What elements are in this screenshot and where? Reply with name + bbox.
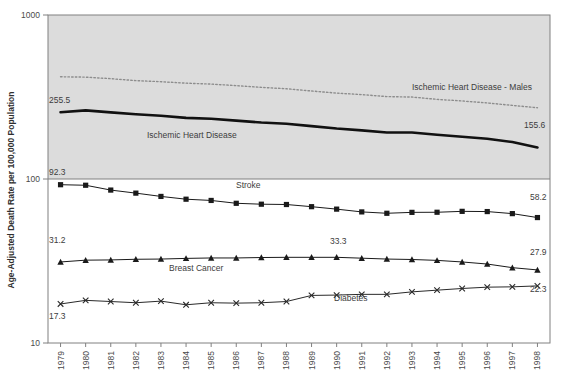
series-marker-square [133,191,138,196]
value-annotation: 31.2 [49,235,66,245]
x-tick-label: 1982 [131,351,141,370]
x-tick-label: 1994 [432,351,442,370]
x-tick-label: 1981 [106,351,116,370]
x-tick-label: 1979 [56,351,66,370]
series-marker-square [485,209,490,214]
series-marker-square [334,207,339,212]
series-marker-square [460,209,465,214]
x-tick-label: 1990 [332,351,342,370]
x-tick-label: 1988 [281,351,291,370]
series-marker-square [510,211,515,216]
value-annotation: 255.5 [49,95,71,105]
x-tick-label: 1986 [231,351,241,370]
series-marker-square [535,215,540,220]
x-tick-label: 1995 [457,351,467,370]
x-tick-label: 1991 [357,351,367,370]
y-axis-title: Age-Adjusted Death Rate per 100,000 Popu… [6,92,16,289]
series-marker-square [58,182,63,187]
x-tick-label: 1985 [206,351,216,370]
value-annotation: 92.3 [49,167,66,177]
series-inline-label: Breast Cancer [169,263,223,273]
series-marker-square [108,187,113,192]
x-tick-label: 1989 [307,351,317,370]
y-tick-label: 1000 [21,10,40,20]
series-marker-square [409,210,414,215]
series-marker-square [309,204,314,209]
value-annotation: 58.2 [530,192,547,202]
x-tick-label: 1997 [507,351,517,370]
series-inline-label: Ischemic Heart Disease - Males [412,82,532,92]
line-chart: 100010010 197919801981198219831984198519… [0,0,566,375]
value-annotation: 27.9 [530,247,547,257]
series-marker-square [158,194,163,199]
series-marker-square [209,198,214,203]
series-marker-square [284,202,289,207]
series-marker-square [259,202,264,207]
x-tick-label: 1980 [81,351,91,370]
x-tick-label: 1998 [532,351,542,370]
value-annotation: 17.3 [49,311,66,321]
x-tick-label: 1993 [407,351,417,370]
series-marker-square [359,209,364,214]
x-tick-label: 1983 [156,351,166,370]
chart-container: 100010010 197919801981198219831984198519… [0,0,566,375]
value-annotation: 155.6 [524,120,546,130]
y-tick-label: 100 [26,174,40,184]
plot-band-upper [48,15,550,179]
x-tick-label: 1987 [256,351,266,370]
series-marker-square [83,183,88,188]
series-inline-label: Diabetes [334,293,368,303]
series-marker-square [183,197,188,202]
series-marker-square [434,210,439,215]
x-tick-label: 1996 [482,351,492,370]
series-inline-label: Ischemic Heart Disease [147,130,237,140]
x-tick-label: 1984 [181,351,191,370]
plot-band-lower [48,179,550,343]
x-tick-label: 1992 [382,351,392,370]
value-annotation: 22.3 [530,284,547,294]
value-annotation: 33.3 [330,236,347,246]
series-marker-square [234,201,239,206]
y-tick-label: 10 [31,338,41,348]
series-inline-label: Stroke [236,180,261,190]
series-marker-square [384,211,389,216]
